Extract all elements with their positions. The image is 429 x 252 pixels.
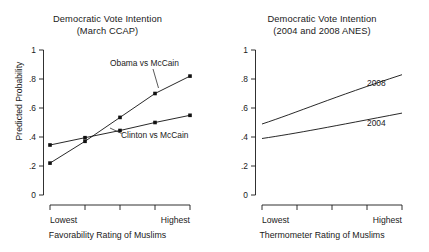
panel-left-x-ticklabel-highest: Highest — [161, 215, 191, 225]
y-ticklabel: .8 — [241, 74, 248, 84]
panel-right-y-ticklabels: 1 .8 .6 .4 .2 0 — [241, 45, 248, 200]
y-ticklabel: 0 — [243, 190, 248, 200]
two-panel-figure: Democratic Vote Intention (March CCAP) P… — [0, 0, 429, 252]
panel-left-x-axis-label: Favorability Rating of Muslims — [0, 230, 215, 240]
y-ticklabel: 1 — [31, 45, 36, 55]
y-ticklabel: .8 — [29, 74, 36, 84]
y-ticklabel: .6 — [29, 103, 36, 113]
series-leader-obama — [153, 69, 159, 88]
y-ticklabel: .6 — [241, 103, 248, 113]
panel-right-y-ticks — [251, 50, 256, 195]
panel-left-x-ticks — [50, 205, 190, 210]
series-label-2008: 2008 — [367, 78, 386, 88]
chart-panel-right: Democratic Vote Intention (2004 and 2008… — [215, 0, 429, 252]
panel-right-x-ticklabel-lowest: Lowest — [262, 215, 290, 225]
y-ticklabel: 1 — [243, 45, 248, 55]
series-label-obama-vs-mccain: Obama vs McCain — [110, 58, 179, 68]
panel-left-plot: 1 .8 .6 .4 .2 0 Lowest Highest — [0, 0, 215, 252]
y-ticklabel: .4 — [241, 132, 248, 142]
panel-right-x-axis-label: Thermometer Rating of Muslims — [215, 230, 429, 240]
y-ticklabel: .4 — [29, 132, 36, 142]
y-ticklabel: .2 — [241, 161, 248, 171]
series-label-2004: 2004 — [367, 118, 386, 128]
panel-right-x-ticks — [262, 205, 402, 210]
panel-left-x-ticklabel-lowest: Lowest — [50, 215, 78, 225]
chart-panel-left: Democratic Vote Intention (March CCAP) P… — [0, 0, 215, 252]
panel-right-x-ticklabel-highest: Highest — [373, 215, 403, 225]
y-ticklabel: .2 — [29, 161, 36, 171]
series-label-clinton-vs-mccain: Clinton vs McCain — [121, 130, 189, 140]
panel-left-y-ticks — [39, 50, 44, 195]
panel-right-plot: 1 .8 .6 .4 .2 0 Lowest Highest 2008 — [215, 0, 429, 252]
y-ticklabel: 0 — [31, 190, 36, 200]
panel-left-y-ticklabels: 1 .8 .6 .4 .2 0 — [29, 45, 36, 200]
